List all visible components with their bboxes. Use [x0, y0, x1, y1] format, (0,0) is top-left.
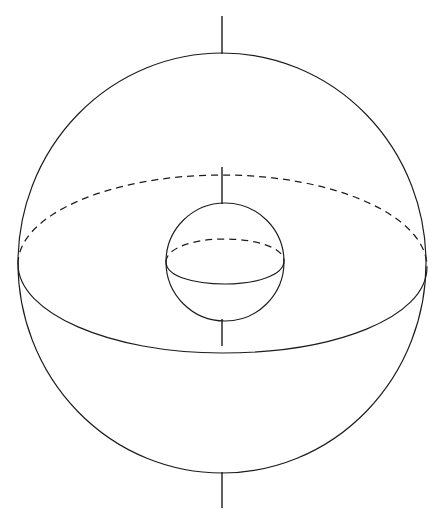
inner-equator-front-half-solid: [166, 261, 284, 284]
outer-sphere-outline: [18, 53, 426, 473]
inner-sphere-outline: [166, 203, 284, 321]
nested-spheres-figure: [0, 0, 444, 520]
diagram-canvas: [0, 0, 444, 520]
inner-equator-back-half-dashed: [166, 239, 284, 262]
